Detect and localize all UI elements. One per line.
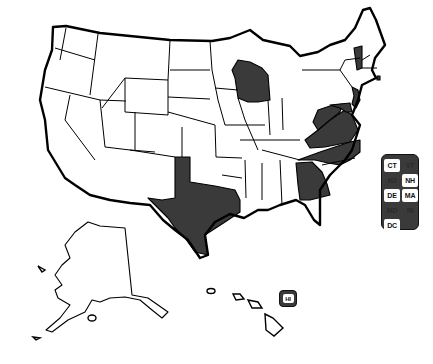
legend-chip-nj[interactable]: NJ	[384, 174, 400, 187]
alaska-island	[38, 266, 45, 272]
small-states-legend: CT VT NJ NH DE MA MD RI DC	[381, 154, 419, 230]
legend-chip-md[interactable]: MD	[384, 204, 400, 217]
state-rhode-island[interactable]	[377, 76, 380, 80]
legend-chip-dc[interactable]: DC	[384, 219, 400, 232]
us-map	[0, 0, 433, 364]
legend-chip-ct[interactable]: CT	[384, 159, 400, 172]
alaska-island	[88, 315, 96, 321]
legend-chip-ri[interactable]: RI	[402, 204, 418, 217]
state-alaska[interactable]	[46, 222, 168, 332]
legend-chip-nh[interactable]: NH	[402, 174, 418, 187]
legend-chip-vt[interactable]: VT	[402, 159, 418, 172]
legend-chip-hi[interactable]: HI	[283, 294, 294, 303]
hawaii-label-box: HI	[279, 290, 297, 307]
legend-chip-de[interactable]: DE	[384, 189, 400, 202]
alaska-island	[33, 337, 40, 340]
legend-chip-ma[interactable]: MA	[402, 189, 418, 202]
state-hawaii[interactable]	[207, 289, 283, 337]
